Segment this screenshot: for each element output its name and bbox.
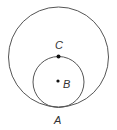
point-b-label: B [63, 78, 70, 90]
point-a-label: A [53, 114, 61, 126]
point-c-dot [57, 55, 61, 59]
point-c-label: C [55, 39, 63, 51]
tangent-circles-diagram: C B A [0, 0, 117, 130]
point-b-dot [56, 79, 59, 82]
